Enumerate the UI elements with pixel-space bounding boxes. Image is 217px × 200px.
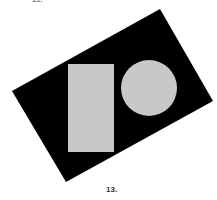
gray-rectangle-shape (68, 64, 114, 152)
gray-circle-shape (121, 60, 177, 116)
figure-number-bottom: 13. (106, 186, 117, 194)
figure-diagram (0, 0, 217, 200)
